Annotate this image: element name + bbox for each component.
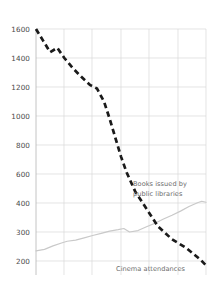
y-axis-tick-1600: 1600 — [4, 25, 30, 34]
books-annotation-line1: Books issued by — [133, 180, 187, 190]
y-axis-tick-800: 800 — [4, 141, 30, 150]
y-axis-tick-600: 600 — [4, 170, 30, 179]
chart-plot-area — [0, 0, 212, 300]
cinema-annotation-line1: Cinema attendances — [116, 265, 185, 275]
books-series-annotation: Books issued by public libraries — [133, 180, 187, 199]
y-axis-tick-400: 400 — [4, 199, 30, 208]
y-axis-tick-1000: 1000 — [4, 112, 30, 121]
grid-lines — [36, 29, 206, 275]
y-axis-tick-1400: 1400 — [4, 54, 30, 63]
y-axis-tick-300: 300 — [4, 228, 30, 237]
cinema-series-annotation: Cinema attendances — [116, 265, 185, 275]
chart-container: 1600 1400 1200 1000 800 600 400 300 200 … — [0, 0, 212, 300]
books-annotation-line2: public libraries — [133, 190, 187, 200]
y-axis-tick-1200: 1200 — [4, 83, 30, 92]
y-axis-tick-200: 200 — [4, 257, 30, 266]
